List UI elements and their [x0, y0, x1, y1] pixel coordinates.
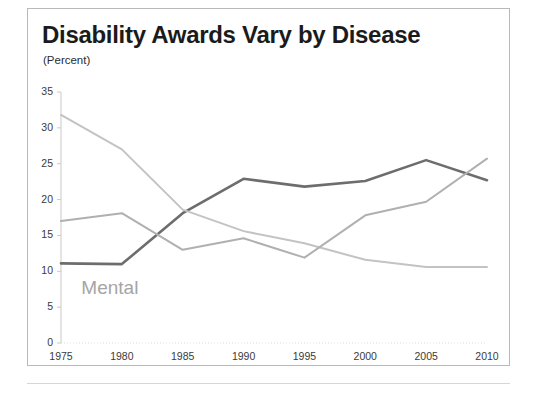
series-line-musculoskeletal — [61, 159, 487, 258]
series-line-circulatory — [61, 115, 487, 267]
y-axis-tick-label: 5 — [31, 300, 53, 312]
y-axis-tick-label: 30 — [31, 121, 53, 133]
series-annotation-mental: Mental — [81, 277, 138, 299]
footer-divider — [27, 383, 510, 384]
x-axis-tick-label: 1990 — [224, 350, 264, 362]
y-axis-tick-label: 15 — [31, 228, 53, 240]
y-axis-tick-label: 0 — [31, 336, 53, 348]
screenshot-root: Disability Awards Vary by Disease (Perce… — [0, 0, 545, 393]
x-axis-tick-label: 1980 — [102, 350, 142, 362]
plot-area: 0510152025303519751980198519901995200020… — [28, 9, 511, 367]
y-axis-tick-label: 20 — [31, 193, 53, 205]
x-axis-tick-label: 1985 — [163, 350, 203, 362]
x-axis-tick-label: 2010 — [467, 350, 507, 362]
x-axis-tick-label: 2000 — [345, 350, 385, 362]
line-chart-svg — [28, 9, 511, 367]
x-axis-tick-label: 1995 — [284, 350, 324, 362]
x-axis-tick-label: 2005 — [406, 350, 446, 362]
chart-card: Disability Awards Vary by Disease (Perce… — [27, 8, 510, 366]
y-axis-tick-label: 25 — [31, 157, 53, 169]
x-axis-tick-label: 1975 — [41, 350, 81, 362]
y-axis-tick-label: 35 — [31, 85, 53, 97]
y-axis-tick-label: 10 — [31, 264, 53, 276]
